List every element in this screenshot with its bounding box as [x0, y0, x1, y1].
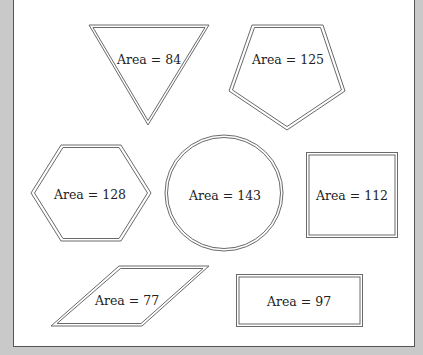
rectangle-area-label: Area = 97: [267, 294, 331, 309]
hexagon-area-label: Area = 128: [54, 187, 126, 202]
pentagon-area-label: Area = 125: [252, 52, 324, 67]
pentagon-shape: [229, 25, 345, 130]
shapes-canvas: [0, 0, 423, 355]
parallelogram-area-label: Area = 77: [95, 293, 159, 308]
circle-area-label: Area = 143: [189, 188, 261, 203]
square-area-label: Area = 112: [316, 188, 388, 203]
triangle-shape: [89, 25, 209, 125]
triangle-area-label: Area = 84: [117, 52, 181, 67]
